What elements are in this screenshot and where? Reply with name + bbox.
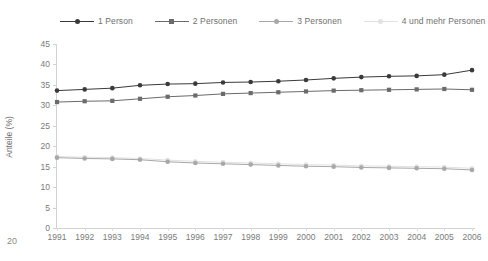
x-axis-tick-mark xyxy=(306,228,307,231)
y-axis-tick-label: 0 xyxy=(8,223,50,233)
data-point-marker xyxy=(166,95,170,99)
series-line xyxy=(57,70,472,90)
x-axis-tick-mark xyxy=(444,228,445,231)
legend-line-icon xyxy=(155,21,189,22)
data-point-marker xyxy=(470,88,474,92)
y-axis-tick-label: 45 xyxy=(8,39,50,49)
x-axis-tick-mark xyxy=(140,228,141,231)
series-line xyxy=(57,156,472,168)
legend-line-icon xyxy=(60,21,94,22)
y-axis-tick-label: 10 xyxy=(8,182,50,192)
y-axis-tick-label: 5 xyxy=(8,203,50,213)
data-point-marker xyxy=(221,162,226,167)
data-point-marker xyxy=(193,81,198,86)
data-point-marker xyxy=(359,75,364,80)
data-point-marker xyxy=(165,159,170,164)
x-axis-tick-label: 2001 xyxy=(324,232,343,242)
x-axis-tick-label: 1999 xyxy=(269,232,288,242)
x-axis-tick-mark xyxy=(85,228,86,231)
data-point-marker xyxy=(82,156,87,161)
data-point-marker xyxy=(82,87,87,92)
data-point-marker xyxy=(165,82,170,87)
x-axis-tick-label: 1998 xyxy=(241,232,260,242)
data-point-marker xyxy=(304,164,309,169)
x-axis-tick-label: 2000 xyxy=(297,232,316,242)
data-point-marker xyxy=(110,99,114,103)
x-axis-tick-mark xyxy=(472,228,473,231)
legend-label: 3 Personen xyxy=(297,16,341,26)
data-point-marker xyxy=(331,76,336,81)
data-point-marker xyxy=(387,166,392,171)
x-axis-tick-mark xyxy=(251,228,252,231)
legend-item-4[interactable]: 4 und mehr Personen xyxy=(364,16,486,26)
x-axis-tick-label: 2003 xyxy=(380,232,399,242)
data-point-marker xyxy=(304,78,309,83)
data-point-marker xyxy=(304,89,308,93)
data-point-marker xyxy=(387,74,392,79)
x-axis-tick-label: 1996 xyxy=(186,232,205,242)
chart-svg xyxy=(57,44,474,228)
legend-line-icon xyxy=(364,21,398,22)
data-point-marker xyxy=(387,88,391,92)
x-axis-tick-mark xyxy=(361,228,362,231)
data-point-marker xyxy=(55,155,60,160)
x-axis-tick-mark xyxy=(223,228,224,231)
chart-legend: 1 Person2 Personen3 Personen4 und mehr P… xyxy=(60,14,480,28)
data-point-marker xyxy=(138,97,142,101)
data-point-marker xyxy=(442,72,447,77)
x-axis-tick-mark xyxy=(57,228,58,231)
y-axis-tick-label: 30 xyxy=(8,100,50,110)
x-axis-tick-label: 1994 xyxy=(131,232,150,242)
data-point-marker xyxy=(249,91,253,95)
x-axis-tick-label: 1995 xyxy=(158,232,177,242)
legend-label: 1 Person xyxy=(98,16,133,26)
x-axis-tick-mark xyxy=(112,228,113,231)
legend-marker-icon xyxy=(378,19,383,24)
x-axis-tick-label: 2005 xyxy=(435,232,454,242)
x-axis-tick-label: 1992 xyxy=(75,232,94,242)
x-axis-tick-label: 1993 xyxy=(103,232,122,242)
data-point-marker xyxy=(110,157,115,162)
y-axis-tick-label: 20 xyxy=(8,141,50,151)
data-point-marker xyxy=(55,88,60,93)
legend-item-3[interactable]: 3 Personen xyxy=(259,16,341,26)
y-axis-tick-label: 15 xyxy=(8,162,50,172)
legend-label: 2 Personen xyxy=(193,16,237,26)
x-axis-tick-mark xyxy=(168,228,169,231)
legend-marker-icon xyxy=(274,19,279,24)
x-axis-tick-label: 2002 xyxy=(352,232,371,242)
series-2 xyxy=(55,87,474,104)
legend-item-1[interactable]: 1 Person xyxy=(60,16,133,26)
data-point-marker xyxy=(331,164,336,169)
data-point-marker xyxy=(138,83,143,88)
x-axis-tick-mark xyxy=(417,228,418,231)
legend-line-icon xyxy=(259,21,293,22)
legend-label: 4 und mehr Personen xyxy=(402,16,486,26)
data-point-marker xyxy=(221,92,225,96)
data-point-marker xyxy=(442,87,446,91)
data-point-marker xyxy=(221,80,226,85)
x-axis-tick-mark xyxy=(389,228,390,231)
data-point-marker xyxy=(359,88,363,92)
data-point-marker xyxy=(110,86,115,91)
y-axis-title: Anteile (%) xyxy=(2,44,16,229)
y-axis-tick-label: 35 xyxy=(8,80,50,90)
legend-item-2[interactable]: 2 Personen xyxy=(155,16,237,26)
data-point-marker xyxy=(414,166,419,171)
x-axis-tick-label: 1997 xyxy=(214,232,233,242)
data-point-marker xyxy=(83,99,87,103)
data-point-marker xyxy=(276,79,281,84)
x-axis-tick-mark xyxy=(334,228,335,231)
x-axis-line xyxy=(56,228,475,229)
data-point-marker xyxy=(442,166,447,171)
page-number: 20 xyxy=(7,236,17,246)
x-axis-tick-mark xyxy=(195,228,196,231)
data-point-marker xyxy=(276,90,280,94)
data-point-marker xyxy=(193,93,197,97)
series-line xyxy=(57,89,472,102)
x-axis-tick-mark xyxy=(278,228,279,231)
data-point-marker xyxy=(470,168,475,173)
data-point-marker xyxy=(332,89,336,93)
data-point-marker xyxy=(414,74,419,79)
data-point-marker xyxy=(276,163,281,168)
